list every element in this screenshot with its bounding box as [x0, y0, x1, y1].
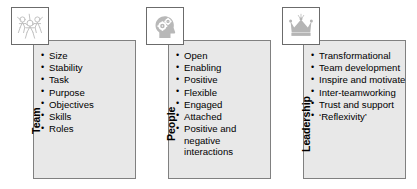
list-item: Purpose [41, 87, 133, 99]
list-item: Positive and negative interactions [176, 123, 268, 158]
list-item: Engaged [176, 99, 268, 111]
list-item: ‘Reflexivity’ [311, 111, 407, 123]
group-of-people-icon [15, 11, 45, 41]
icon-tile-leadership [282, 7, 320, 45]
head-with-gears-icon [150, 11, 180, 41]
factor-list-people: Open Enabling Positive Flexible Engaged … [176, 50, 268, 159]
list-item: Team development [311, 62, 407, 74]
icon-tile-people [146, 7, 184, 45]
list-item: Objectives [41, 99, 133, 111]
three-column-factors-diagram: Team Size Stability Task Purpose Objecti… [0, 0, 417, 189]
icon-tile-team [11, 7, 49, 45]
list-item: Enabling [176, 62, 268, 74]
category-label-team: Team [30, 107, 42, 134]
list-item: Inter-teamworking [311, 87, 407, 99]
list-item: Task [41, 74, 133, 86]
list-item: Skills [41, 111, 133, 123]
crown-icon [286, 11, 316, 41]
factor-list-leadership: Transformational Team development Inspir… [311, 50, 407, 123]
list-item: Roles [41, 123, 133, 135]
list-item: Stability [41, 62, 133, 74]
list-item: Flexible [176, 87, 268, 99]
category-label-people: People [165, 107, 177, 141]
list-item: Size [41, 50, 133, 62]
list-item: Trust and support [311, 99, 407, 111]
factor-list-team: Size Stability Task Purpose Objectives S… [41, 50, 133, 135]
list-item: Positive [176, 74, 268, 86]
list-item: Open [176, 50, 268, 62]
list-item: Transformational [311, 50, 407, 62]
list-item: Attached [176, 111, 268, 123]
list-item: Inspire and motivate [311, 74, 407, 86]
category-label-leadership: Leadership [300, 96, 312, 152]
